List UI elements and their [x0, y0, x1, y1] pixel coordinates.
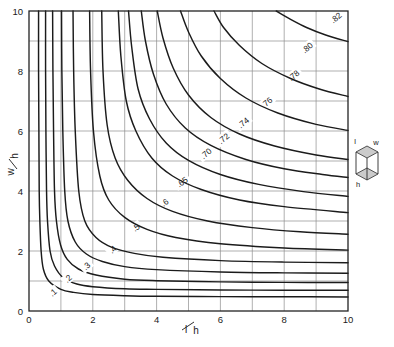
y-tick-label: 8: [18, 66, 23, 77]
box-label-l: l: [354, 137, 356, 146]
x-tick-label: 8: [282, 314, 287, 325]
x-tick-label: 10: [343, 314, 354, 325]
y-tick-label: 0: [18, 306, 23, 317]
x-tick-label: 4: [154, 314, 159, 325]
contour-label: .74: [234, 113, 253, 132]
y-tick-label: 6: [18, 126, 23, 137]
contour-line: [214, 11, 348, 97]
x-tick-label: 6: [218, 314, 223, 325]
y-axis-label: w h: [5, 153, 20, 176]
y-axis-label-fraction-bar: [9, 159, 17, 169]
y-tick-label: 2: [18, 246, 23, 257]
x-axis-label-denominator: h: [193, 325, 199, 336]
contour-line: [141, 11, 348, 178]
contour-curves: .1.2.3.4.5.6.65.70.72.74.76.78.80.82: [39, 8, 348, 300]
box-label-h: h: [356, 180, 360, 189]
box-top-face: [356, 146, 378, 158]
x-axis-label-numerator: l: [185, 324, 187, 335]
chart-canvas: .1.2.3.4.5.6.65.70.72.74.76.78.80.82 024…: [0, 0, 394, 347]
view-factor-chart: .1.2.3.4.5.6.65.70.72.74.76.78.80.82 024…: [0, 0, 394, 347]
y-axis-label-denominator: h: [9, 153, 20, 159]
contour-label: .3: [78, 258, 94, 274]
contour-label: .72: [214, 129, 233, 148]
y-tick-label: 10: [12, 6, 23, 17]
y-axis-label-numerator: w: [5, 168, 16, 177]
x-tick-label: 2: [90, 314, 95, 325]
contour-label: .2: [60, 271, 76, 287]
contour-label: .1: [45, 284, 61, 300]
box-diagram: l w h: [354, 137, 379, 189]
box-label-w: w: [372, 138, 379, 147]
y-tick-label: 4: [18, 186, 23, 197]
x-tick-label: 0: [26, 314, 31, 325]
x-axis-label: l h: [182, 322, 199, 336]
x-axis-label-fraction-bar: [182, 322, 194, 330]
